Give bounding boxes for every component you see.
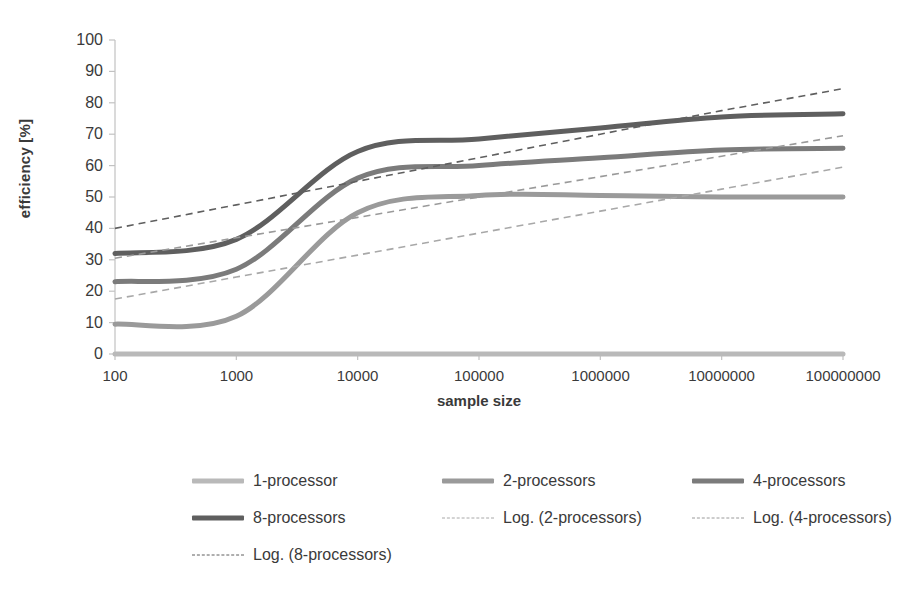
y-axis-title: efficiency [%] (16, 59, 33, 279)
legend-item[interactable]: Log. (8-processors) (192, 546, 392, 564)
legend-label: 8-processors (253, 509, 345, 527)
y-axis-tick-label: 80 (57, 95, 103, 111)
legend-line-swatch-icon (192, 473, 244, 489)
series-line (115, 148, 843, 281)
y-axis-tick-label: 100 (57, 32, 103, 48)
y-axis-tick-label: 90 (57, 63, 103, 79)
legend-item[interactable]: 8-processors (192, 509, 345, 527)
legend-row: 1-processor2-processors4-processors (96, 462, 836, 499)
x-axis-tick-label: 1000000 (571, 368, 629, 383)
legend-item[interactable]: 1-processor (192, 472, 337, 490)
y-axis-tick-label: 40 (57, 220, 103, 236)
legend-line-swatch-icon (692, 473, 744, 489)
series-line (115, 89, 843, 229)
legend-item[interactable]: Log. (4-processors) (692, 509, 892, 527)
axis-lines (109, 40, 843, 360)
legend-item[interactable]: 2-processors (442, 472, 595, 490)
x-axis-tick-label: 100000000 (806, 368, 881, 383)
legend-dashed-swatch-icon (692, 510, 744, 526)
y-axis-tick-label: 50 (57, 189, 103, 205)
chart-figure: 0102030405060708090100 10010001000010000… (0, 0, 903, 601)
series-line (115, 167, 843, 299)
x-axis-tick-label: 10000 (337, 368, 379, 383)
series-line (115, 194, 843, 327)
y-axis-tick-label: 10 (57, 315, 103, 331)
legend-label: 2-processors (503, 472, 595, 490)
x-axis-tick-label: 100 (103, 368, 128, 383)
legend-item[interactable]: 4-processors (692, 472, 845, 490)
legend-dashed-swatch-icon (192, 547, 244, 563)
legend-line-swatch-icon (442, 473, 494, 489)
x-axis-tick-label: 10000000 (688, 368, 755, 383)
legend-label: Log. (2-processors) (503, 509, 642, 527)
y-axis-tick-label: 30 (57, 252, 103, 268)
legend-item[interactable]: Log. (2-processors) (442, 509, 642, 527)
legend-label: 4-processors (753, 472, 845, 490)
x-axis-tick-label: 100000 (454, 368, 504, 383)
y-axis-tick-label: 0 (57, 346, 103, 362)
y-axis-tick-label: 60 (57, 158, 103, 174)
series-line (115, 114, 843, 254)
y-axis-tick-label: 20 (57, 283, 103, 299)
legend-row: 8-processorsLog. (2-processors)Log. (4-p… (96, 499, 836, 536)
y-axis-tick-label: 70 (57, 126, 103, 142)
series-lines (115, 89, 843, 354)
x-axis-title: sample size (115, 392, 843, 409)
x-axis-tick-label: 1000 (220, 368, 253, 383)
legend-label: Log. (4-processors) (753, 509, 892, 527)
legend-row: Log. (8-processors) (96, 536, 836, 573)
chart-legend: 1-processor2-processors4-processors8-pro… (96, 462, 836, 573)
legend-label: Log. (8-processors) (253, 546, 392, 564)
legend-label: 1-processor (253, 472, 337, 490)
legend-dashed-swatch-icon (442, 510, 494, 526)
legend-line-swatch-icon (192, 510, 244, 526)
